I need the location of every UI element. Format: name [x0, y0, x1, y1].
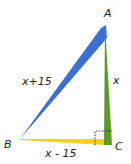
vertex-label-a: A	[104, 8, 112, 19]
triangle-diagram: A B C x+15 x x - 15	[0, 0, 131, 164]
vertex-label-c: C	[115, 141, 123, 152]
side-ac-band	[104, 25, 112, 145]
side-bc-band	[20, 139, 104, 145]
side-label-ac: x	[113, 75, 120, 86]
triangle-figure	[0, 0, 131, 164]
side-label-ab: x+15	[22, 76, 52, 87]
side-label-bc: x - 15	[45, 148, 76, 159]
vertex-label-b: B	[4, 139, 12, 150]
